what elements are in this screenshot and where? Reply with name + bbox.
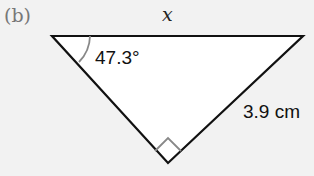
side-length-label: 3.9 cm xyxy=(243,101,300,123)
right-triangle xyxy=(52,36,303,163)
triangle-diagram xyxy=(0,0,314,176)
top-side-label: x xyxy=(162,3,173,25)
part-label: (b) xyxy=(4,4,31,26)
angle-label: 47.3° xyxy=(95,47,140,69)
